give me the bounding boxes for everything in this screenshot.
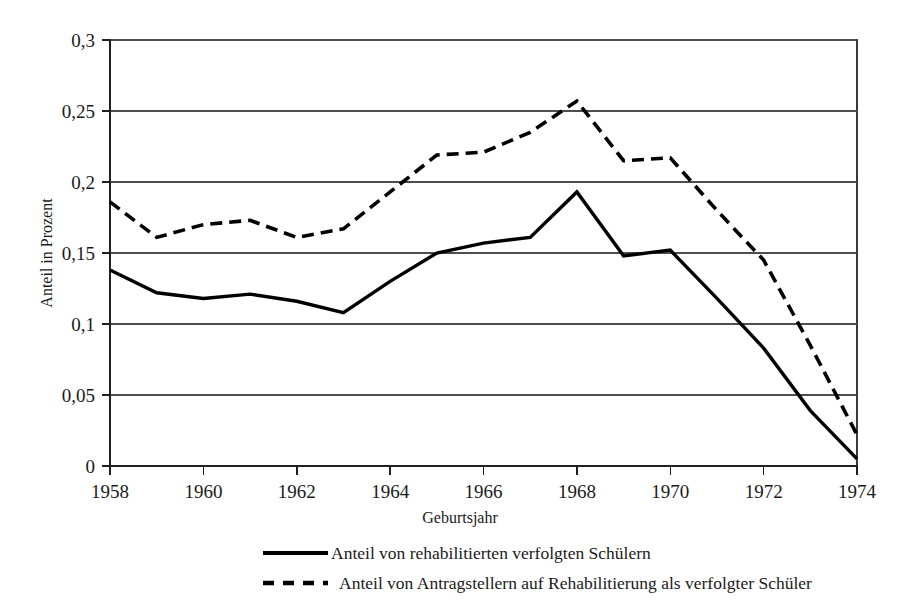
y-tick-label: 0,1 bbox=[71, 314, 95, 335]
x-tick-label: 1974 bbox=[838, 481, 877, 502]
y-tick-label: 0 bbox=[86, 456, 96, 477]
x-tick-label: 1972 bbox=[745, 481, 783, 502]
chart-canvas: 00,050,10,150,20,250,3 19581960196219641… bbox=[0, 0, 907, 614]
legend-label-dashed: Anteil von Antragstellern auf Rehabiliti… bbox=[339, 573, 812, 593]
x-axis-title: Geburtsjahr bbox=[422, 509, 498, 527]
y-tick-label: 0,2 bbox=[71, 172, 95, 193]
x-tick-label: 1962 bbox=[278, 481, 316, 502]
y-tick-label: 0,05 bbox=[62, 385, 95, 406]
x-tick-label: 1968 bbox=[558, 481, 596, 502]
x-tick-label: 1966 bbox=[465, 481, 503, 502]
x-tick-label: 1964 bbox=[371, 481, 410, 502]
legend-entry-dashed: Anteil von Antragstellern auf Rehabiliti… bbox=[263, 573, 812, 593]
x-tick-label: 1958 bbox=[91, 481, 129, 502]
x-tick-label: 1970 bbox=[651, 481, 689, 502]
y-axis-title: Anteil in Prozent bbox=[38, 198, 55, 308]
x-tick-label: 1960 bbox=[184, 481, 222, 502]
line-chart-figure: 00,050,10,150,20,250,3 19581960196219641… bbox=[0, 0, 907, 614]
y-tick-label: 0,15 bbox=[62, 243, 95, 264]
y-tick-label: 0,3 bbox=[71, 30, 95, 51]
y-tick-label: 0,25 bbox=[62, 101, 95, 122]
legend-label-solid: Anteil von rehabilitierten verfolgten Sc… bbox=[331, 543, 651, 563]
